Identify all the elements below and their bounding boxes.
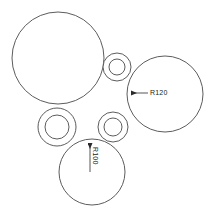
annulus-left — [38, 108, 76, 146]
annulus-middle — [98, 112, 128, 142]
annuli-group — [38, 53, 131, 146]
cad-drawing-svg: R120 R100 — [0, 0, 210, 210]
large-circles-group — [12, 12, 203, 205]
annulus-middle-outer-circle — [98, 112, 128, 142]
radius-dimension-bottom: R100 — [90, 143, 99, 172]
large-circle-top-left — [12, 12, 104, 104]
drawing-canvas: R120 R100 — [0, 0, 210, 210]
large-circle-bottom — [59, 139, 125, 205]
radius-dimension-bottom-label: R100 — [92, 147, 99, 165]
radius-dimension-right-label: R120 — [150, 89, 168, 96]
radius-dimension-right: R120 — [131, 89, 168, 96]
annulus-top-outer-circle — [103, 53, 131, 81]
annulus-left-outer-circle — [38, 108, 76, 146]
annulus-top — [103, 53, 131, 81]
